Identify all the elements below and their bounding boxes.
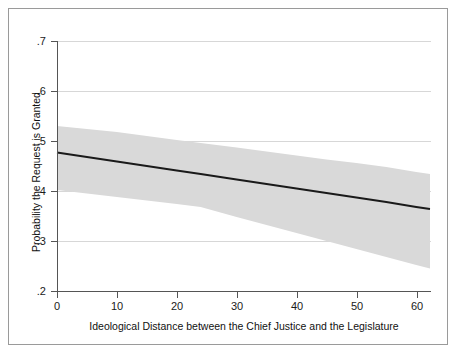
- y-axis-line: [57, 41, 58, 292]
- x-tick-label-50: 50: [337, 300, 377, 312]
- x-tick-mark-0: [57, 292, 58, 298]
- y-tick-mark-0.3: [51, 241, 57, 242]
- y-tick-mark-0.6: [51, 91, 57, 92]
- x-tick-label-60: 60: [397, 300, 437, 312]
- x-tick-label-10: 10: [97, 300, 137, 312]
- plot-area: .7 .6 .5 .4 .3 .2 0 10 20 30 40 50 60 Id…: [0, 0, 459, 355]
- x-tick-mark-50: [357, 292, 358, 298]
- x-tick-mark-30: [237, 292, 238, 298]
- x-tick-label-30: 30: [217, 300, 257, 312]
- figure-container: .7 .6 .5 .4 .3 .2 0 10 20 30 40 50 60 Id…: [0, 0, 459, 355]
- x-axis-line: [57, 291, 431, 292]
- y-axis-title: Probability the Request is Granted: [30, 57, 42, 287]
- y-tick-mark-0.4: [51, 191, 57, 192]
- x-tick-label-40: 40: [277, 300, 317, 312]
- y-tick-label-0.2: .2: [0, 286, 46, 297]
- confidence-band: [57, 126, 430, 269]
- y-tick-mark-0.7: [51, 41, 57, 42]
- y-tick-mark-0.5: [51, 141, 57, 142]
- x-tick-mark-10: [117, 292, 118, 298]
- x-axis-title: Ideological Distance between the Chief J…: [57, 320, 431, 332]
- x-tick-mark-20: [177, 292, 178, 298]
- x-tick-label-20: 20: [157, 300, 197, 312]
- x-tick-mark-60: [417, 292, 418, 298]
- x-tick-mark-40: [297, 292, 298, 298]
- x-tick-label-0: 0: [37, 300, 77, 312]
- y-tick-label-0.7: .7: [0, 36, 46, 47]
